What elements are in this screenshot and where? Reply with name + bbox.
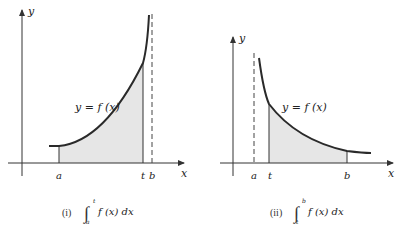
- caption-label: (i): [62, 207, 71, 219]
- caption-label: (ii): [270, 207, 282, 219]
- tick-b: b: [149, 170, 155, 181]
- curve-label: y = f (x): [74, 101, 120, 114]
- integrand: f (x) dx: [97, 206, 134, 217]
- curve-label: y = f (x): [281, 101, 327, 114]
- figure-i: y x a t b y = f (x) (i) ∫ t a f (x) dx: [8, 5, 188, 225]
- integral-upper: t: [93, 197, 96, 204]
- tick-a: a: [56, 170, 62, 181]
- improper-integrals-diagram: y x a t b y = f (x) (i) ∫ t a f (x) dx y…: [0, 0, 399, 234]
- integral-lower: a: [86, 218, 90, 225]
- tick-b: b: [344, 170, 350, 181]
- tick-t: t: [141, 170, 146, 181]
- x-axis-label: x: [388, 167, 395, 180]
- integrand: f (x) dx: [307, 206, 344, 217]
- figure-ii: y x a t b y = f (x) (ii) ∫ b t f (x) dx: [220, 32, 395, 225]
- y-axis-label: y: [27, 5, 35, 18]
- tick-a: a: [251, 170, 257, 181]
- integral-upper: b: [302, 197, 306, 204]
- x-axis-label: x: [181, 167, 188, 180]
- y-axis-label: y: [238, 32, 246, 45]
- tick-t: t: [268, 170, 273, 181]
